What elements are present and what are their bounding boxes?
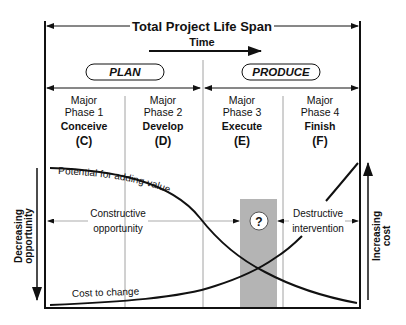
- diagram-title: Total Project Life Span: [132, 19, 272, 34]
- svg-text:(F): (F): [312, 134, 327, 148]
- svg-text:Major: Major: [229, 94, 256, 106]
- phase-4: Major Phase 4 Finish (F): [301, 94, 340, 148]
- svg-text:(C): (C): [76, 134, 93, 148]
- svg-text:(E): (E): [234, 134, 250, 148]
- cost-label: cost: [381, 225, 392, 246]
- produce-label: PRODUCE: [252, 66, 310, 78]
- svg-text:Phase 3: Phase 3: [223, 106, 262, 118]
- svg-text:Develop: Develop: [143, 120, 184, 132]
- constructive-label-1: Constructive: [90, 208, 146, 219]
- phase-3: Major Phase 3 Execute (E): [222, 94, 262, 148]
- svg-text:Finish: Finish: [305, 120, 336, 132]
- svg-text:Major: Major: [150, 94, 177, 106]
- time-label: Time: [189, 36, 214, 48]
- svg-text:Execute: Execute: [222, 120, 262, 132]
- project-life-span-diagram: Total Project Life Span Time PLAN PRODUC…: [0, 0, 406, 325]
- phase-1: Major Phase 1 Conceive (C): [61, 94, 108, 148]
- cost-to-change-label: Cost to change: [72, 286, 140, 299]
- potential-value-curve: [50, 168, 357, 303]
- svg-text:Phase 2: Phase 2: [144, 106, 183, 118]
- phase-2: Major Phase 2 Develop (D): [143, 94, 184, 148]
- svg-text:Major: Major: [307, 94, 334, 106]
- opportunity-label: opportunity: [23, 208, 34, 264]
- svg-text:Phase 1: Phase 1: [65, 106, 104, 118]
- plan-label: PLAN: [109, 66, 141, 78]
- destructive-label-1: Destructive: [293, 208, 343, 219]
- cost-to-change-curve-upper: [326, 163, 358, 201]
- svg-text:Conceive: Conceive: [61, 120, 108, 132]
- destructive-label-2: intervention: [292, 223, 344, 234]
- constructive-label-2: opportunity: [93, 223, 142, 234]
- question-mark: ?: [255, 215, 262, 229]
- potential-value-label: Potential for adding value: [58, 165, 172, 195]
- svg-text:Major: Major: [71, 94, 98, 106]
- svg-text:(D): (D): [155, 134, 172, 148]
- svg-text:Phase 4: Phase 4: [301, 106, 340, 118]
